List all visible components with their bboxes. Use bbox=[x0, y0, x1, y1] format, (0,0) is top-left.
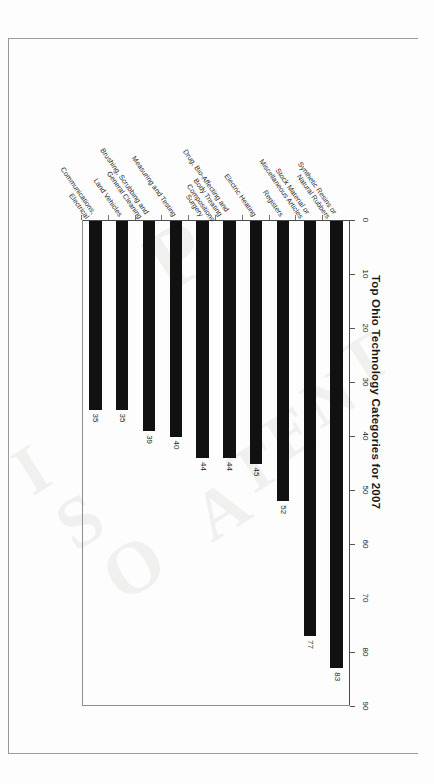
plot-bottom-edge bbox=[82, 220, 83, 706]
bar-row: 35Land Vehicles bbox=[116, 221, 128, 706]
axis-tick bbox=[350, 274, 355, 275]
bar bbox=[143, 221, 155, 431]
axis-tick bbox=[350, 382, 355, 383]
axis-tick bbox=[350, 652, 355, 653]
value-axis-line bbox=[349, 220, 350, 706]
bar-value-label: 77 bbox=[305, 636, 314, 649]
axis-tick bbox=[350, 544, 355, 545]
bar-value-label: 40 bbox=[171, 437, 180, 450]
category-axis-tick bbox=[135, 215, 136, 220]
axis-tick-label: 80 bbox=[361, 648, 370, 657]
plot-area: 0102030405060708090 83Synthetic Resins o… bbox=[82, 220, 350, 706]
bar bbox=[170, 221, 182, 437]
bar-row: 52Registers bbox=[277, 221, 289, 706]
bar-value-label: 35 bbox=[118, 410, 127, 423]
bar-value-label: 83 bbox=[332, 668, 341, 681]
axis-tick bbox=[350, 598, 355, 599]
axis-tick-label: 70 bbox=[361, 594, 370, 603]
bar-row: 83Synthetic Resins or Natural Rubbers bbox=[330, 221, 342, 706]
bar-row: 39Brushing, Scrubbing and General Cleani… bbox=[143, 221, 155, 706]
category-axis-tick bbox=[295, 215, 296, 220]
axis-tick bbox=[350, 436, 355, 437]
category-axis-tick bbox=[108, 215, 109, 220]
bar-row: 45Electric Heating bbox=[250, 221, 262, 706]
category-axis-tick bbox=[242, 215, 243, 220]
bar bbox=[196, 221, 208, 458]
axis-tick-label: 10 bbox=[361, 270, 370, 279]
bar bbox=[89, 221, 101, 410]
axis-tick bbox=[350, 706, 355, 707]
bar-row: 44Drug, Bio-Affecting and Body Treating … bbox=[223, 221, 235, 706]
axis-tick-label: 90 bbox=[361, 702, 370, 711]
axis-tick-label: 0 bbox=[361, 218, 370, 222]
bar bbox=[330, 221, 342, 668]
bar-row: 44Surgery bbox=[196, 221, 208, 706]
bar-row: 77Stock Material or Miscellaneous Articl… bbox=[304, 221, 316, 706]
category-axis-tick bbox=[161, 215, 162, 220]
axis-tick bbox=[350, 328, 355, 329]
bar-value-label: 35 bbox=[91, 410, 100, 423]
rotated-chart-container: Top Ohio Technology Categories for 2007 … bbox=[52, 42, 382, 742]
chart-title: Top Ohio Technology Categories for 2007 bbox=[370, 42, 382, 742]
bar-value-label: 39 bbox=[145, 431, 154, 444]
bar-value-label: 44 bbox=[198, 458, 207, 471]
chart: Top Ohio Technology Categories for 2007 … bbox=[52, 42, 382, 742]
bar-value-label: 44 bbox=[225, 458, 234, 471]
bar-row: 35Communications, Electrical bbox=[89, 221, 101, 706]
bar bbox=[116, 221, 128, 410]
axis-tick-label: 40 bbox=[361, 432, 370, 441]
bar bbox=[250, 221, 262, 464]
bar-row: 40Measuring and Testing bbox=[170, 221, 182, 706]
axis-tick-label: 20 bbox=[361, 324, 370, 333]
category-axis-tick bbox=[188, 215, 189, 220]
bar bbox=[304, 221, 316, 636]
bar bbox=[277, 221, 289, 501]
axis-tick-label: 60 bbox=[361, 540, 370, 549]
scanned-page: ISOPATENT Top Ohio Technology Categories… bbox=[0, 0, 434, 784]
category-axis-tick bbox=[269, 215, 270, 220]
category-axis-tick bbox=[81, 215, 82, 220]
bar-value-label: 52 bbox=[279, 501, 288, 514]
axis-tick bbox=[350, 220, 355, 221]
axis-tick-label: 50 bbox=[361, 486, 370, 495]
axis-tick bbox=[350, 490, 355, 491]
bar-value-label: 45 bbox=[252, 464, 261, 477]
category-axis-tick bbox=[215, 215, 216, 220]
bar bbox=[223, 221, 235, 458]
axis-tick-label: 30 bbox=[361, 378, 370, 387]
category-axis-tick bbox=[322, 215, 323, 220]
category-label: Surgery bbox=[104, 79, 208, 223]
